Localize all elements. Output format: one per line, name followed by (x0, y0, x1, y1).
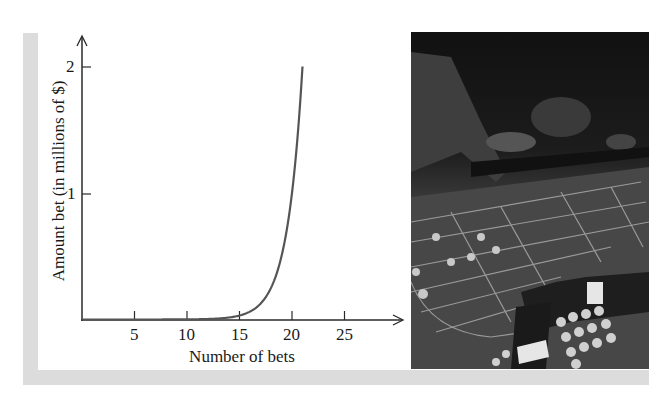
x-tick-label: 25 (336, 326, 353, 343)
y-tick-label: 2 (66, 58, 75, 75)
roulette-table-photo (411, 32, 649, 369)
data-curve (82, 67, 303, 320)
x-tick-label: 20 (283, 326, 300, 343)
photo-illustration (411, 32, 649, 369)
y-axis-title: Amount bet (in millions of $) (49, 81, 69, 282)
x-tick-label: 5 (130, 326, 139, 343)
x-tick-label: 10 (178, 326, 195, 343)
x-axis-title: Number of bets (189, 347, 295, 367)
x-tick-label: 15 (231, 326, 248, 343)
